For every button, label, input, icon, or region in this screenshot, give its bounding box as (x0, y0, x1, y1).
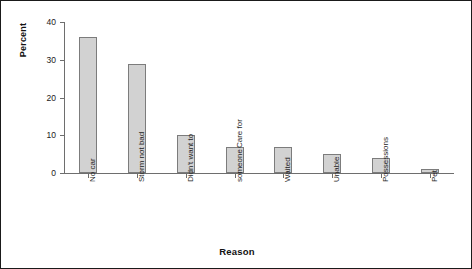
y-tick: 40 (1, 22, 64, 23)
bar-slot (408, 22, 452, 173)
y-tick: 20 (1, 98, 64, 99)
y-tick-label: 0 (51, 166, 56, 180)
bar-slot (66, 22, 110, 173)
x-axis-title: Reason (1, 246, 472, 257)
x-category-label-line: Unable (332, 157, 341, 182)
x-category-label: Pet (408, 182, 452, 242)
bar-chart-figure: Percent 010203040 No carStorm not badDid… (0, 0, 472, 269)
y-tick-label: 40 (47, 15, 56, 29)
x-category-label-line: Pet (430, 170, 439, 182)
y-axis-title: Percent (16, 0, 30, 80)
x-category-label-line: Storm not bad (137, 132, 146, 182)
y-tick-label: 20 (47, 91, 56, 105)
bar[interactable] (79, 37, 97, 173)
y-tick: 30 (1, 60, 64, 61)
bar-slot (310, 22, 354, 173)
x-category-label: Possessions (359, 182, 403, 242)
x-category-label-line: No car (88, 158, 97, 182)
plot-area (64, 22, 454, 173)
y-tick-label: 30 (47, 53, 56, 67)
y-tick: 0 (1, 173, 64, 174)
x-category-label-line: Didn't want to (186, 134, 195, 182)
x-category-label: Waited (261, 182, 305, 242)
x-category-label: Care forsomeone (213, 182, 257, 242)
bar-slot (261, 22, 305, 173)
x-category-label-line: Care for (235, 119, 244, 148)
x-category-label: Unable (310, 182, 354, 242)
x-category-label-line: Possessions (381, 137, 390, 182)
y-tick: 10 (1, 135, 64, 136)
x-axis-line (64, 173, 454, 174)
x-category-label-line: someone (235, 149, 244, 182)
x-category-label-line: Waited (283, 157, 292, 182)
y-tick-label: 10 (47, 128, 56, 142)
x-category-label: No car (66, 182, 110, 242)
x-category-label: Storm not bad (115, 182, 159, 242)
x-category-label: Didn't want to (164, 182, 208, 242)
